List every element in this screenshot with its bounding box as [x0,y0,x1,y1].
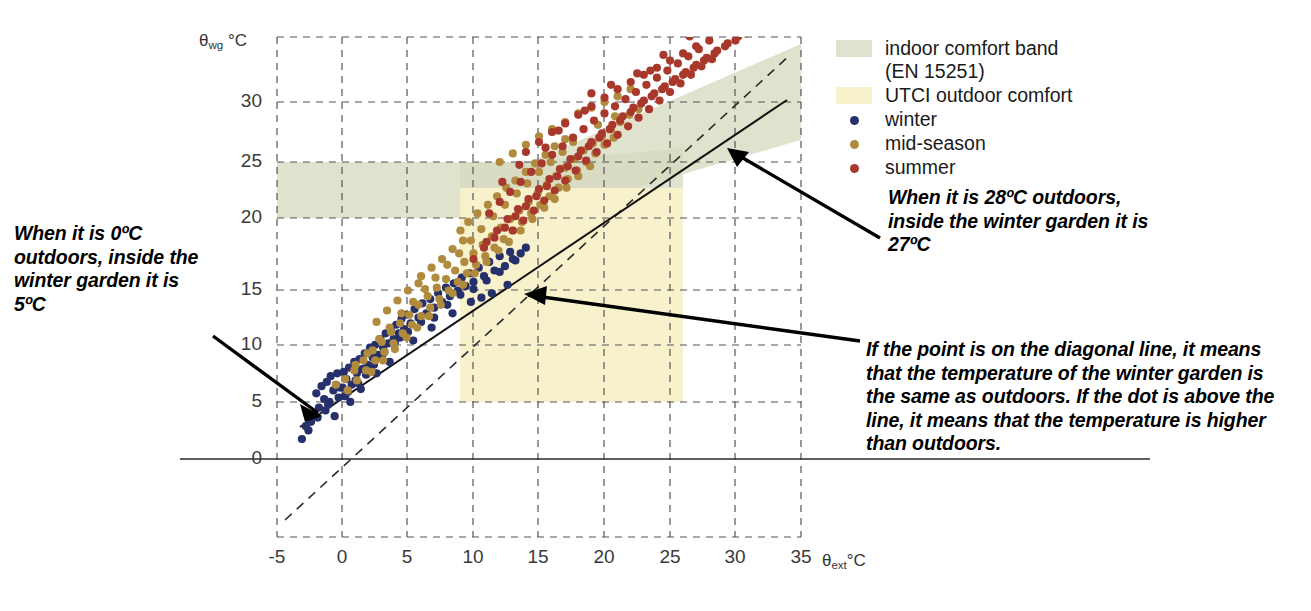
scatter-point [551,195,559,203]
scatter-point [490,234,498,242]
scatter-point [511,212,519,220]
scatter-point [517,226,525,234]
annotation-bottom-right: If the point is on the diagonal line, it… [866,338,1286,456]
x-tick-label: 15 [516,546,560,568]
scatter-point [506,188,514,196]
scatter-point [608,121,616,129]
scatter-point [742,29,750,37]
scatter-point [467,236,475,244]
legend-item-winter[interactable]: winter [836,108,1166,131]
legend-item-label: mid-season [885,132,986,155]
scatter-point [409,298,417,306]
identity-diagonal-line [285,55,790,520]
scatter-point [561,135,569,143]
scatter-point [607,81,615,89]
y-tick-label: 0 [222,447,262,469]
scatter-point [404,286,412,294]
scatter-point [494,246,502,254]
scatter-point [593,148,601,156]
scatter-point [527,168,535,176]
scatter-point [548,151,556,159]
legend-item-label: indoor comfort band [885,37,1058,60]
scatter-point [540,204,548,212]
scatter-point [496,268,504,276]
scatter-point [433,284,441,292]
x-tick-label: 10 [451,546,495,568]
scatter-point [396,319,404,327]
x-axis-unit: °C [847,551,866,570]
legend-item-utci-outdoor-comfort[interactable]: UTCI outdoor comfort [836,84,1166,107]
scatter-point [506,248,514,256]
scatter-point [640,96,648,104]
scatter-point [551,186,559,194]
scatter-point [551,142,559,150]
scatter-point [538,159,546,167]
scatter-point [463,269,471,277]
x-tick-label: 35 [779,546,823,568]
scatter-point [515,161,523,169]
scatter-point [530,206,538,214]
scatter-point [464,218,472,226]
scatter-point [359,356,367,364]
scatter-point [679,49,687,57]
scatter-point [477,294,485,302]
x-tick-label: 20 [582,546,626,568]
scatter-point [535,138,543,146]
scatter-point [393,296,401,304]
scatter-point [438,255,446,263]
scatter-point [324,401,332,409]
scatter-point [716,28,724,36]
legend-item-indoor-comfort-band[interactable]: indoor comfort band (EN 15251) [836,37,1166,83]
scatter-point [469,285,477,293]
scatter-point [509,226,517,234]
scatter-point [555,126,563,134]
y-tick-label: 20 [222,206,262,228]
legend-swatch-icon [836,87,872,104]
scatter-point [334,394,342,402]
legend-swatch-icon [836,40,872,57]
scatter-point [541,144,549,152]
legend-dot-icon [836,140,872,149]
scatter-point [448,309,456,317]
comfort-bands-group [277,44,801,402]
scatter-point [509,149,517,157]
scatter-point [633,69,641,77]
legend-item-label-second-line: (EN 15251) [885,60,1058,83]
scatter-point [503,281,511,289]
legend-item-label: winter [885,108,937,131]
scatter-point [483,238,491,246]
scatter-point [493,226,501,234]
x-tick-label: 30 [713,546,757,568]
scatter-point [514,205,522,213]
scatter-point [522,244,530,252]
scatter-point [498,178,506,186]
scatter-point [505,238,513,246]
scatter-point [645,105,653,113]
scatter-point [569,134,577,142]
scatter-point [332,381,340,389]
scatter-point [603,139,611,147]
y-axis-unit: °C [228,31,247,50]
scatter-point [417,272,425,280]
scatter-point [718,27,726,35]
scatter-point [692,42,700,50]
scatter-point [302,422,310,430]
scatter-point [346,398,354,406]
scatter-point [535,185,543,193]
scatter-point [456,226,464,234]
scatter-point [383,306,391,314]
scatter-point [619,112,627,120]
legend-item-mid-season[interactable]: mid-season [836,132,1166,155]
x-tick-label: 5 [385,546,429,568]
scatter-point [666,88,674,96]
scatter-point [421,285,429,293]
scatter-point [629,104,637,112]
x-axis-subscript: ext [831,559,846,571]
scatter-point [650,89,658,97]
scatter-point [483,258,491,266]
scatter-point [564,162,572,170]
legend-item-summer[interactable]: summer [836,156,1166,179]
scatter-point [372,318,380,326]
scatter-point [331,412,339,420]
chart-legend: indoor comfort band (EN 15251) UTCI outd… [836,37,1166,180]
